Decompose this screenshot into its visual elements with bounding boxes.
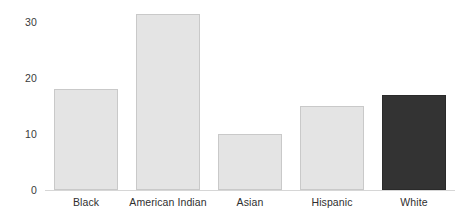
- x-tick-label-black: Black: [73, 197, 99, 208]
- bar-black[interactable]: [54, 89, 118, 190]
- bar-american-indian[interactable]: [136, 14, 200, 190]
- bar-group-hispanic: Hispanic: [291, 8, 373, 190]
- y-tick-label-20: 20: [25, 73, 37, 84]
- x-axis-baseline: [45, 190, 455, 191]
- x-tick-label-hispanic: Hispanic: [311, 197, 352, 208]
- y-tick-label-30: 30: [25, 17, 37, 28]
- bar-group-american-indian: American Indian: [127, 8, 209, 190]
- bar-white[interactable]: [382, 95, 446, 190]
- bar-group-black: Black: [45, 8, 127, 190]
- bar-asian[interactable]: [218, 134, 282, 190]
- bars-container: Black American Indian Asian Hispanic Whi…: [45, 8, 455, 190]
- x-tick-label-asian: Asian: [237, 197, 264, 208]
- bar-group-white: White: [373, 8, 455, 190]
- y-axis: 30 20 10 0: [0, 0, 45, 216]
- bar-group-asian: Asian: [209, 8, 291, 190]
- y-tick-label-0: 0: [31, 185, 37, 196]
- x-tick-label-american-indian: American Indian: [129, 197, 206, 208]
- bar-chart-figure: 30 20 10 0 Black American Indian Asian H…: [0, 0, 463, 216]
- bar-hispanic[interactable]: [300, 106, 364, 190]
- y-tick-label-10: 10: [25, 129, 37, 140]
- x-tick-label-white: White: [400, 197, 427, 208]
